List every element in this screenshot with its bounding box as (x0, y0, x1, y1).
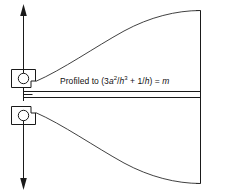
profile-formula-label: Profiled to (3a2/h3 + 1/h) = m (60, 77, 169, 86)
upper-profiled-edge (36, 11, 201, 82)
down-arrow-head (20, 178, 27, 190)
upper-pivot-circle (18, 73, 28, 83)
formula-prefix: Profiled to (3 (60, 76, 109, 86)
profiled-beam-figure: Profiled to (3a2/h3 + 1/h) = m (0, 0, 246, 194)
lower-pivot-circle (18, 110, 28, 120)
lower-profiled-edge (36, 113, 201, 184)
formula-plus-term: + 1/ (128, 76, 145, 86)
up-arrow-head (20, 4, 27, 16)
diagram-canvas (0, 0, 246, 194)
formula-close-equals: ) = (149, 76, 162, 86)
formula-var-m: m (162, 76, 169, 86)
